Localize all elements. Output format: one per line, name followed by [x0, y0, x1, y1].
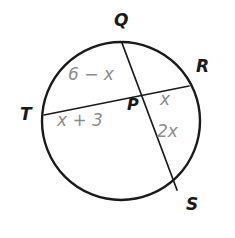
- segment-label-qp: 6 − x: [68, 66, 114, 83]
- segment-label-ps: 2x: [157, 123, 178, 140]
- segment-label-tp: x + 3: [57, 112, 103, 129]
- segment-label-pr: x: [160, 91, 170, 108]
- point-label-q: Q: [114, 12, 128, 29]
- point-label-r: R: [196, 58, 209, 75]
- geometry-figure: Q R T S P 6 − x x + 3 x 2x: [0, 0, 235, 238]
- figure-canvas: [0, 0, 235, 238]
- point-label-t: T: [20, 106, 32, 123]
- point-label-p: P: [127, 97, 139, 113]
- point-label-s: S: [186, 196, 198, 213]
- chord-qs: [122, 43, 177, 190]
